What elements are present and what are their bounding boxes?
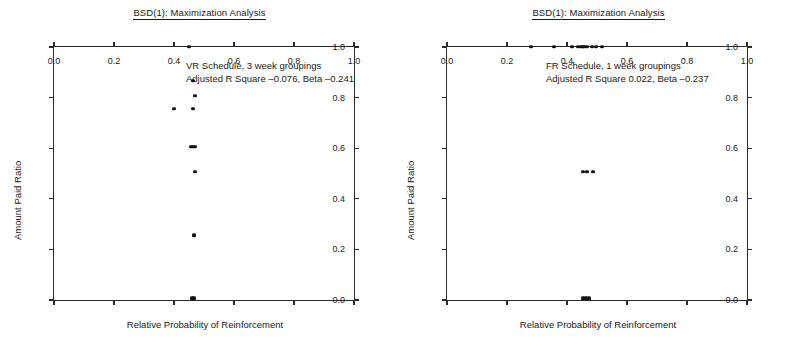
ytick-right-5 bbox=[747, 46, 752, 47]
xtick-bottom-0 bbox=[446, 300, 447, 305]
ytick-left-3 bbox=[49, 148, 54, 149]
xtick-bottom-5 bbox=[746, 300, 747, 305]
ytick-label-2: 0.4 bbox=[725, 194, 738, 204]
xtick-bottom-4 bbox=[293, 300, 294, 305]
ytick-right-2 bbox=[747, 198, 752, 199]
xtick-label-0: 0.0 bbox=[48, 56, 61, 66]
ytick-label-4: 0.8 bbox=[725, 93, 738, 103]
xtick-top-1 bbox=[113, 42, 114, 47]
xtick-bottom-0 bbox=[53, 300, 54, 305]
ytick-label-3: 0.6 bbox=[725, 143, 738, 153]
ytick-label-5: 1.0 bbox=[332, 42, 345, 52]
ytick-left-0 bbox=[442, 299, 447, 300]
ytick-left-2 bbox=[442, 198, 447, 199]
ytick-label-3: 0.6 bbox=[332, 143, 345, 153]
ytick-right-1 bbox=[354, 249, 359, 250]
ytick-left-1 bbox=[49, 249, 54, 250]
xtick-label-1: 0.2 bbox=[501, 56, 514, 66]
ytick-right-3 bbox=[354, 148, 359, 149]
xtick-top-1 bbox=[506, 42, 507, 47]
xtick-bottom-1 bbox=[113, 300, 114, 305]
xtick-top-2 bbox=[566, 42, 567, 47]
panel-right-yaxis-title: Amount Paid Ratio bbox=[405, 161, 416, 240]
ytick-left-5 bbox=[49, 46, 54, 47]
xtick-bottom-5 bbox=[353, 300, 354, 305]
xtick-bottom-2 bbox=[566, 300, 567, 305]
xtick-bottom-2 bbox=[173, 300, 174, 305]
ytick-right-3 bbox=[747, 148, 752, 149]
ytick-left-5 bbox=[442, 46, 447, 47]
ytick-label-0: 0.0 bbox=[332, 295, 345, 305]
xtick-label-2: 0.4 bbox=[168, 56, 181, 66]
xtick-top-4 bbox=[686, 42, 687, 47]
panel-right-title-text: BSD(1): Maximization Analysis bbox=[532, 7, 664, 20]
panel-right-annotation: FR Schedule, 1 week groupings Adjusted R… bbox=[546, 59, 709, 85]
ytick-label-1: 0.2 bbox=[725, 244, 738, 254]
ytick-label-5: 1.0 bbox=[725, 42, 738, 52]
ytick-left-1 bbox=[442, 249, 447, 250]
panel-left-xaxis-title: Relative Probability of Reinforcement bbox=[54, 319, 356, 330]
ytick-right-0 bbox=[354, 299, 359, 300]
ytick-label-0: 0.0 bbox=[725, 295, 738, 305]
ytick-left-0 bbox=[49, 299, 54, 300]
xtick-bottom-1 bbox=[506, 300, 507, 305]
ytick-label-2: 0.4 bbox=[332, 194, 345, 204]
panel-right-title: BSD(1): Maximization Analysis bbox=[399, 7, 798, 18]
panel-left-title: BSD(1): Maximization Analysis bbox=[0, 7, 399, 18]
panel-left-title-text: BSD(1): Maximization Analysis bbox=[133, 7, 265, 20]
panel-left-yaxis-title: Amount Paid Ratio bbox=[12, 161, 23, 240]
ytick-right-0 bbox=[747, 299, 752, 300]
panel-left-annotation: VR Schedule, 3 week groupings Adjusted R… bbox=[186, 59, 354, 85]
xtick-top-4 bbox=[293, 42, 294, 47]
ytick-left-4 bbox=[442, 97, 447, 98]
xtick-bottom-4 bbox=[686, 300, 687, 305]
ytick-right-4 bbox=[747, 97, 752, 98]
figure-two-scatter-panels: BSD(1): Maximization Analysis 0.00.20.40… bbox=[0, 0, 798, 357]
xtick-label-5: 1.0 bbox=[741, 56, 754, 66]
xtick-label-0: 0.0 bbox=[441, 56, 454, 66]
panel-right-annotation-line2: Adjusted R Square 0.022, Beta –0.237 bbox=[546, 72, 709, 85]
ytick-right-4 bbox=[354, 97, 359, 98]
panel-left-annotation-line2: Adjusted R Square –0.076, Beta –0.241 bbox=[186, 72, 354, 85]
ytick-left-2 bbox=[49, 198, 54, 199]
panel-right-annotation-line1: FR Schedule, 1 week groupings bbox=[546, 59, 709, 72]
xtick-top-2 bbox=[173, 42, 174, 47]
ytick-left-4 bbox=[49, 97, 54, 98]
xtick-bottom-3 bbox=[626, 300, 627, 305]
panel-right-plot-area: 0.00.20.40.60.81.00.00.20.40.60.81.0 FR … bbox=[446, 46, 748, 301]
ytick-right-1 bbox=[747, 249, 752, 250]
panel-left-annotation-line1: VR Schedule, 3 week groupings bbox=[186, 59, 354, 72]
xtick-top-3 bbox=[233, 42, 234, 47]
panel-right-fr-schedule: BSD(1): Maximization Analysis 0.00.20.40… bbox=[399, 0, 798, 357]
ytick-right-2 bbox=[354, 198, 359, 199]
ytick-left-3 bbox=[442, 148, 447, 149]
ytick-label-1: 0.2 bbox=[332, 244, 345, 254]
panel-left-vr-schedule: BSD(1): Maximization Analysis 0.00.20.40… bbox=[0, 0, 399, 357]
xtick-top-3 bbox=[626, 42, 627, 47]
ytick-label-4: 0.8 bbox=[332, 93, 345, 103]
panel-left-plot-area: 0.00.20.40.60.81.00.00.20.40.60.81.0 VR … bbox=[53, 46, 355, 301]
ytick-right-5 bbox=[354, 46, 359, 47]
xtick-label-1: 0.2 bbox=[108, 56, 121, 66]
xtick-bottom-3 bbox=[233, 300, 234, 305]
panel-right-xaxis-title: Relative Probability of Reinforcement bbox=[447, 319, 749, 330]
